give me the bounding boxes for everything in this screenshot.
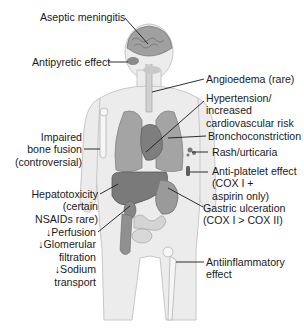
label-line: effect	[206, 268, 285, 280]
label-line: Hypertension/	[206, 92, 294, 104]
label-anti-platelet: Anti-platelet effect (COX I + aspirin on…	[212, 165, 297, 202]
label-rash-urticaria: Rash/urticaria	[212, 146, 277, 158]
label-line: Impaired	[15, 131, 82, 143]
label-line: Gastric ulceration	[203, 202, 285, 214]
label-line: Antiinflammatory	[206, 256, 285, 268]
heart	[141, 124, 163, 160]
label-line: NSAIDs rare)	[31, 213, 98, 225]
label-line: ↓Sodium	[38, 263, 96, 275]
label-bone-fusion: Impaired bone fusion (controversial)	[15, 131, 82, 168]
label-line: Hepatotoxicity	[31, 188, 98, 200]
label-line: Anti-platelet effect	[212, 165, 297, 177]
label-line: filtration	[38, 251, 96, 263]
label-line: (COX I +	[212, 177, 297, 189]
label-line: transport	[38, 276, 96, 288]
label-line: ↓Glomerular	[38, 238, 96, 250]
label-hepatotoxicity: Hepatotoxicity (certain NSAIDs rare)	[31, 188, 98, 225]
label-line: (certain	[31, 200, 98, 212]
label-renal-effects: ↓Perfusion ↓Glomerular filtration ↓Sodiu…	[38, 226, 96, 288]
label-angioedema: Angioedema (rare)	[206, 73, 294, 85]
label-antipyretic-effect: Antipyretic effect	[32, 56, 110, 68]
label-antiinflammatory: Antiinflammatory effect	[206, 256, 285, 281]
label-line: (COX I > COX II)	[203, 214, 285, 226]
label-bronchoconstriction: Bronchoconstriction	[208, 130, 301, 142]
label-line: aspirin only)	[212, 190, 297, 202]
label-line: (controversial)	[15, 156, 82, 168]
label-gastric-ulceration: Gastric ulceration (COX I > COX II)	[203, 202, 285, 227]
label-line: increased	[206, 104, 294, 116]
label-line: cardiovascular risk	[206, 117, 294, 129]
label-hypertension: Hypertension/ increased cardiovascular r…	[206, 92, 294, 129]
mouth	[143, 66, 161, 74]
label-line: ↓Perfusion	[38, 226, 96, 238]
label-aseptic-meningitis: Aseptic meningitis	[40, 11, 125, 23]
label-line: bone fusion	[15, 143, 82, 155]
